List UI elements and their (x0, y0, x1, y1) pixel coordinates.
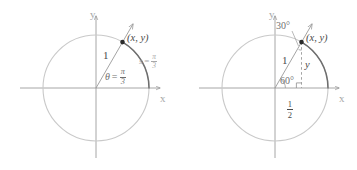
x-axis-label: x (339, 93, 345, 104)
arc-denominator: 3 (151, 61, 156, 70)
theta-denominator: 3 (120, 77, 126, 87)
arc-numerator: π (151, 53, 156, 61)
top-angle-label: 30° (276, 21, 290, 31)
theta-numerator: π (120, 68, 126, 77)
terminal-point-label: (x, y) (306, 33, 328, 44)
terminal-point-dot (299, 40, 304, 45)
arc-symbol: s (139, 57, 143, 66)
vertical-leg-label: y (305, 60, 310, 71)
x-axis-label: x (160, 93, 166, 104)
theta-angle-label: θ = π 3 (105, 68, 127, 86)
theta-equals: = (112, 72, 118, 82)
arc-fraction: π 3 (151, 53, 156, 70)
arc-equals: = (144, 57, 149, 66)
terminal-point-label: (x, y) (127, 33, 149, 44)
arc-length-panel: y x (x, y) 1 θ = π 3 s = π 3 (0, 0, 178, 170)
terminal-point-dot (120, 40, 125, 45)
arc-length-diagram (0, 0, 178, 170)
base-angle-label: 60° (280, 76, 294, 86)
base-leg-fraction: 1 2 (287, 100, 293, 119)
math-figure: y x (x, y) 1 θ = π 3 s = π 3 (0, 0, 357, 170)
base-leg-denominator: 2 (287, 109, 293, 119)
triangle-panel: y x (x, y) 30° 1 60° y 1 2 (179, 0, 357, 170)
y-axis-label: y (269, 9, 275, 20)
theta-fraction: π 3 (120, 68, 126, 86)
y-axis-label: y (90, 9, 96, 20)
arc-length-label: s = π 3 (139, 53, 158, 70)
reference-triangle-diagram (179, 0, 357, 170)
right-angle-marker (296, 83, 301, 88)
base-leg-numerator: 1 (287, 100, 293, 109)
theta-symbol: θ (105, 72, 110, 82)
base-leg-label: 1 2 (286, 94, 294, 119)
hypotenuse-length-label: 1 (282, 55, 288, 66)
radius-length-label: 1 (103, 50, 109, 61)
